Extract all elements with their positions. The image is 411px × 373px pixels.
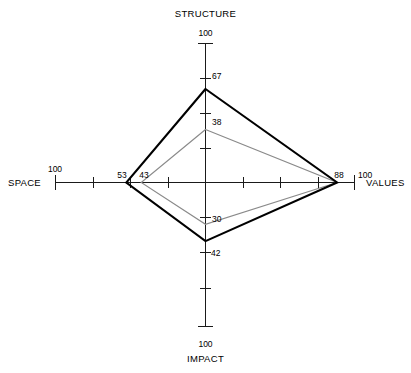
value-label-space-inner: 43: [139, 170, 149, 180]
value-label-structure-outer: 67: [212, 71, 222, 81]
axis-max-space: 100: [48, 164, 62, 174]
data-polygon-inner: [141, 130, 337, 225]
value-label-values-outer: 88: [334, 170, 344, 180]
axis-max-impact: 100: [198, 339, 212, 349]
axis-lines: [55, 43, 355, 327]
radar-chart-canvas: STRUCTURE IMPACT SPACE VALUES 100 100 10…: [0, 0, 411, 373]
value-label-impact-inner: 30: [212, 214, 222, 224]
axis-title-structure: STRUCTURE: [175, 8, 236, 19]
axis-max-values: 100: [358, 170, 372, 180]
value-label-impact-outer: 42: [211, 248, 221, 258]
value-label-structure-inner: 38: [212, 117, 222, 127]
value-label-space-outer: 53: [117, 170, 127, 180]
data-polygon-outer: [126, 89, 337, 241]
axis-max-structure: 100: [198, 28, 212, 38]
radar-chart: STRUCTURE IMPACT SPACE VALUES 100 100 10…: [0, 0, 411, 373]
axis-title-space: SPACE: [8, 177, 41, 188]
axis-title-impact: IMPACT: [187, 353, 224, 364]
